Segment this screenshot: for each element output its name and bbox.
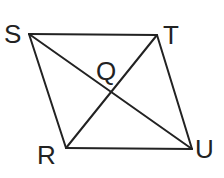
parallelogram-diagram xyxy=(0,0,224,178)
diagonal-tr xyxy=(66,35,157,148)
side-ur xyxy=(66,148,192,149)
side-rs xyxy=(29,34,66,148)
intersection-label-q: Q xyxy=(96,58,116,84)
vertex-label-t: T xyxy=(163,22,179,48)
vertex-label-u: U xyxy=(195,136,214,162)
vertex-label-r: R xyxy=(37,142,56,168)
vertex-label-s: S xyxy=(4,21,21,47)
side-st xyxy=(29,34,157,35)
side-tu xyxy=(157,35,192,149)
